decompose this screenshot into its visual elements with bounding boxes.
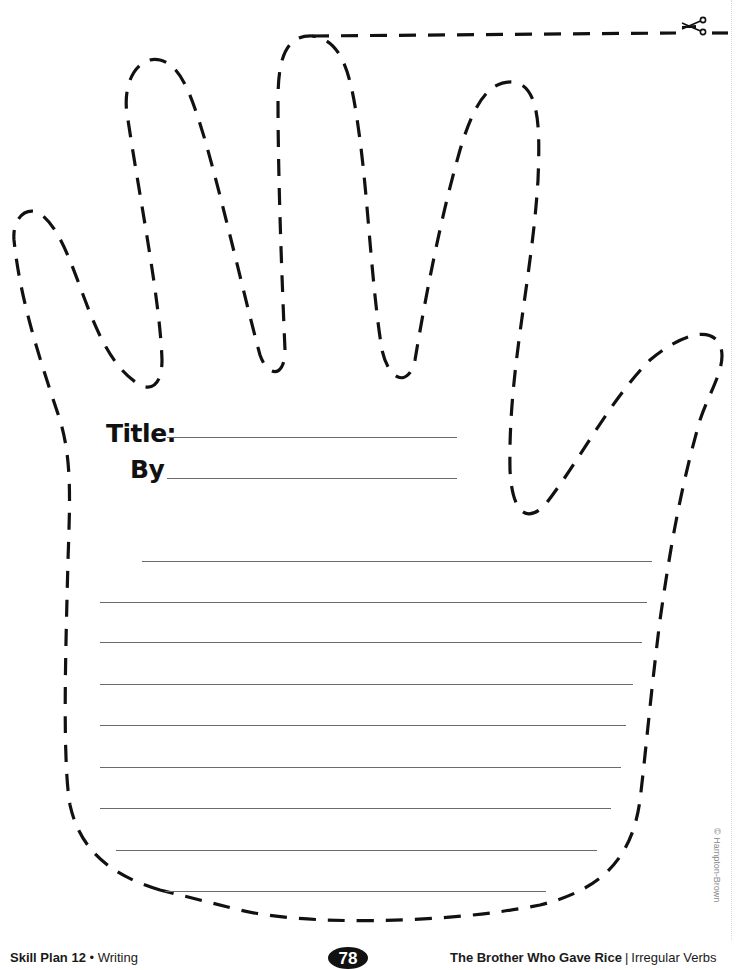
- writing-line-4[interactable]: [100, 684, 633, 685]
- footer-story-title: The Brother Who Gave Rice: [450, 950, 622, 965]
- writing-line-3[interactable]: [100, 642, 642, 643]
- writing-line-9[interactable]: [165, 891, 546, 892]
- footer-divider: |: [625, 950, 628, 965]
- hand-cutout-outline-icon: [0, 0, 736, 970]
- writing-line-2[interactable]: [100, 602, 647, 603]
- writing-line-1[interactable]: [142, 561, 652, 562]
- page-number-badge: 78: [328, 947, 368, 969]
- footer-skill-type: Writing: [98, 950, 138, 965]
- by-label: By: [130, 455, 164, 484]
- footer-bullet: •: [86, 950, 98, 965]
- writing-line-7[interactable]: [100, 808, 611, 809]
- title-label: Title:: [106, 419, 176, 448]
- copyright-notice: © Hampton-Brown: [712, 828, 722, 902]
- writing-line-5[interactable]: [100, 725, 626, 726]
- footer-skill-plan: Skill Plan 12 • Writing: [10, 950, 138, 965]
- scissors-icon: [680, 14, 708, 38]
- title-input-line[interactable]: [167, 437, 457, 438]
- author-input-line[interactable]: [167, 478, 457, 479]
- writing-line-8[interactable]: [116, 850, 597, 851]
- footer-skill-plan-title: Skill Plan 12: [10, 950, 86, 965]
- footer-topic: Irregular Verbs: [631, 950, 716, 965]
- footer-lesson: The Brother Who Gave Rice|Irregular Verb…: [450, 950, 717, 965]
- writing-line-6[interactable]: [100, 767, 621, 768]
- worksheet-page: Title: By © Hampton-Brown Skill Plan 12 …: [0, 0, 736, 970]
